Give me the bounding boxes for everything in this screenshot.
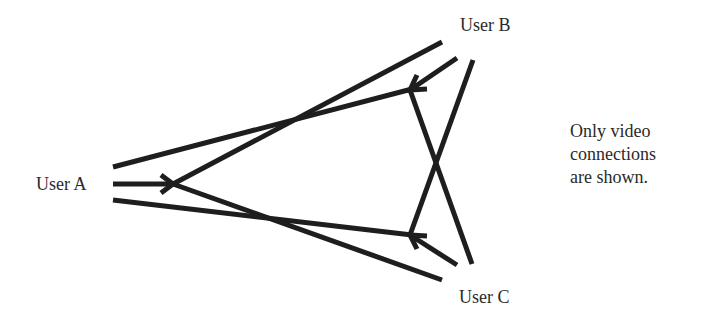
edge-a-to-c	[113, 200, 412, 235]
node-label-user-b: User B	[460, 15, 511, 35]
note-line-2: connections	[570, 143, 656, 166]
note-line-1: Only video	[570, 120, 656, 143]
node-label-user-c: User C	[459, 287, 510, 307]
edge-a-to-b	[113, 89, 412, 167]
edge-b-stub	[410, 58, 457, 90]
edge-b-to-a	[173, 42, 442, 184]
edge-c-stub	[410, 235, 457, 265]
note-line-3: are shown.	[570, 166, 656, 189]
node-label-user-a: User A	[36, 174, 87, 194]
diagram-note: Only video connections are shown.	[570, 120, 656, 189]
